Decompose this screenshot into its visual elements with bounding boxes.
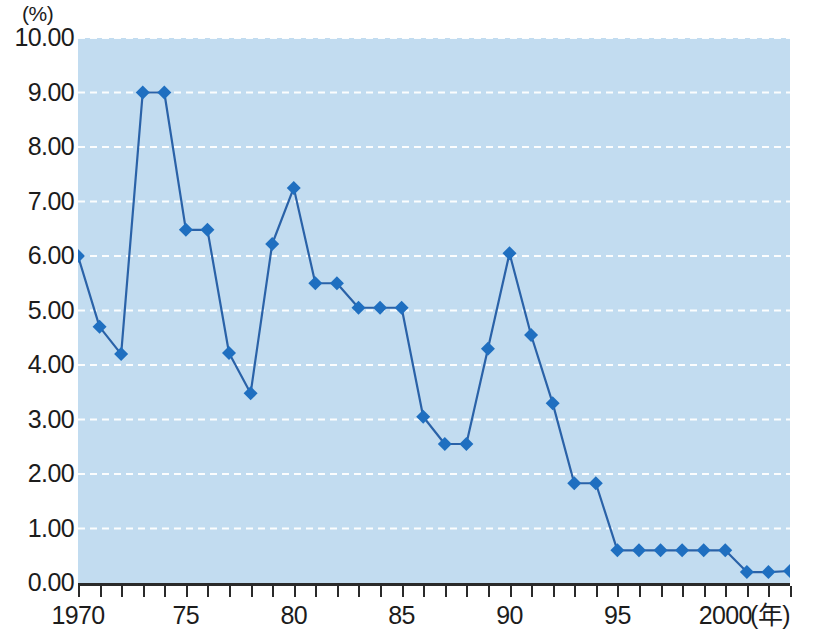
x-axis-tick-label: 75 xyxy=(126,603,246,628)
x-axis-unit-label: (年) xyxy=(750,603,818,628)
x-axis-tick-label: 95 xyxy=(557,603,677,628)
x-axis-tick-labels: 197075808590952000(年) xyxy=(0,0,818,638)
x-axis-tick-label: 1970 xyxy=(18,603,138,628)
x-axis-tick-label: 90 xyxy=(450,603,570,628)
x-axis-tick-label: 80 xyxy=(234,603,354,628)
chart-container: (%) 10.009.008.007.006.005.004.003.002.0… xyxy=(0,0,818,638)
x-axis-tick-label: 85 xyxy=(342,603,462,628)
